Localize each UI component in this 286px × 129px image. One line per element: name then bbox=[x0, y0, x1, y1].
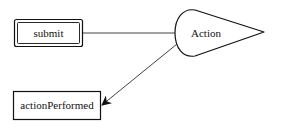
node-submit-label: submit bbox=[34, 27, 64, 39]
node-submit[interactable]: submit bbox=[15, 20, 83, 47]
node-action[interactable]: Action bbox=[175, 10, 264, 57]
node-actionperformed[interactable]: actionPerformed bbox=[14, 92, 101, 120]
node-action-label: Action bbox=[191, 27, 221, 39]
node-actionperformed-label: actionPerformed bbox=[20, 99, 94, 111]
edge-action-to-actionperformed bbox=[102, 44, 177, 105]
diagram-canvas: submit Action actionPerformed bbox=[0, 0, 286, 129]
